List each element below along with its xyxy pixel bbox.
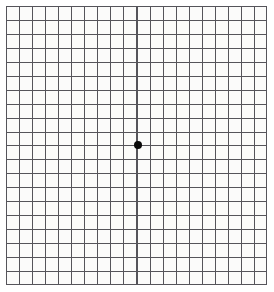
grid-border-bottom: [6, 284, 267, 285]
amsler-grid-chart: [0, 0, 274, 292]
fixation-dot: [134, 141, 142, 149]
grid-border-right: [266, 6, 267, 285]
